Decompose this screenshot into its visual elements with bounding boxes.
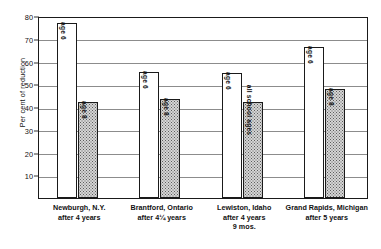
bar-value-label: age 6 [307, 46, 314, 64]
bar-value-label: age 8 [163, 98, 170, 116]
bar: age 6 [222, 73, 242, 198]
bar: age 6 [139, 72, 159, 198]
y-tick-label: 50 [25, 81, 33, 90]
bar: all school ages [243, 102, 263, 198]
bar-value-label: age 6 [142, 71, 149, 89]
bar-value-label: age 6 [60, 22, 67, 40]
bar-group: age 6age 8 [139, 18, 180, 198]
x-axis-category-labels: Newburgh, N.Y.after 4 yearsBrantford, On… [38, 203, 368, 249]
bar-group: age 6age 8 [304, 18, 345, 198]
x-category-line: 9 mos. [191, 222, 298, 232]
bar-value-label: age 8 [328, 88, 335, 106]
bar: age 8 [160, 99, 180, 198]
x-category-line: Grand Rapids, Michigan [274, 203, 381, 213]
bar-group: age 6age 8 [57, 18, 98, 198]
x-category-line: after 5 years [274, 213, 381, 223]
bar: age 8 [78, 102, 98, 198]
y-tick-label: 60 [25, 58, 33, 67]
bar-value-label: all school ages [246, 85, 253, 135]
y-tick-label: 40 [25, 104, 33, 113]
chart-figure: Per cent of reduction 1020304050607080 a… [0, 0, 381, 249]
bar-value-label: age 8 [81, 102, 88, 120]
y-tick-label: 80 [25, 13, 33, 22]
x-category-label: Grand Rapids, Michiganafter 5 years [274, 203, 381, 222]
bar-value-label: age 6 [225, 72, 232, 90]
y-tick-label: 30 [25, 126, 33, 135]
bar: age 6 [57, 23, 77, 198]
bar: age 8 [325, 89, 345, 198]
plot-area: age 6age 8age 6age 8age 6all school ages… [38, 17, 368, 199]
y-tick-label: 70 [25, 35, 33, 44]
y-tick-label: 10 [25, 172, 33, 181]
y-tick-label: 20 [25, 149, 33, 158]
bar: age 6 [304, 47, 324, 198]
bar-group: age 6all school ages [222, 18, 263, 198]
